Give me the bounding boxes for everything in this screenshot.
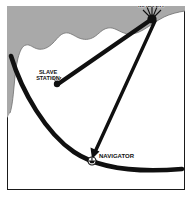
diagram-canvas: MASTER SLAVE STATION NAVIGATOR bbox=[0, 0, 192, 197]
navigation-diagram: MASTER SLAVE STATION NAVIGATOR bbox=[0, 0, 192, 197]
label-slave-line2: STATION bbox=[36, 75, 60, 81]
navigator-marker bbox=[88, 157, 96, 165]
label-navigator: NAVIGATOR bbox=[99, 153, 135, 159]
